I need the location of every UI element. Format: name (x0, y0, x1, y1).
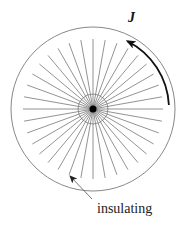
insulating-label: insulating (97, 201, 152, 216)
insulating-pointer-arrow (70, 176, 92, 199)
center-electrode-dot (90, 106, 97, 113)
cylinder-cross-section-diagram: J insulating (0, 0, 182, 228)
current-density-label: J (127, 10, 136, 25)
current-direction-arrow (128, 41, 169, 105)
